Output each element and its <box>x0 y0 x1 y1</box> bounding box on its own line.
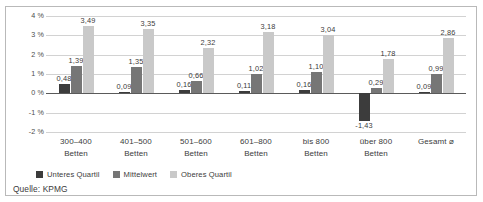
bar <box>299 90 310 93</box>
bar-group: 0,481,393,49 <box>46 16 106 132</box>
bar-value-label: 2,86 <box>441 29 456 37</box>
y-axis: 4 %3 %2 %1 %0 %-1 %-2 % <box>6 16 44 132</box>
bar <box>239 91 250 93</box>
bar-group: 0,111,023,18 <box>226 16 286 132</box>
bar-value-label: 0,11 <box>237 82 251 90</box>
bar <box>419 92 430 94</box>
bar <box>131 67 142 93</box>
gridline <box>46 132 466 133</box>
bar-value-label: 0,09 <box>417 83 432 91</box>
bar-value-label: 2,32 <box>201 39 216 47</box>
category-label-line2: Betten <box>166 148 226 160</box>
bar <box>203 48 214 93</box>
category-label-line2: Betten <box>286 148 346 160</box>
bar-group: 0,090,992,86 <box>406 16 466 132</box>
legend-item: Oberes Quartil <box>170 170 232 179</box>
y-axis-tick-label: -2 % <box>10 128 44 136</box>
category-label-line1: 401–500 <box>120 137 152 146</box>
category-label-line2: Betten <box>346 148 406 160</box>
x-axis-category-label: 601–800Betten <box>226 136 286 159</box>
bar <box>431 74 442 93</box>
legend-label: Mittelwert <box>124 170 158 179</box>
source-note: Quelle: KPMG <box>13 184 68 194</box>
category-label-line1: 501–600 <box>180 137 212 146</box>
bar-value-label: 0,16 <box>297 81 312 89</box>
x-axis-category-label: 501–600Betten <box>166 136 226 159</box>
bar-value-label: 1,78 <box>381 50 396 58</box>
bar <box>119 92 130 94</box>
x-axis-category-label: 300–400Betten <box>46 136 106 159</box>
bar-value-label: 1,10 <box>309 63 324 71</box>
category-label-line1: 601–800 <box>240 137 272 146</box>
y-axis-tick-label: 1 % <box>10 70 44 78</box>
bar-value-label: 3,18 <box>261 23 276 31</box>
x-axis-category-label: Gesamt ⌀ <box>406 136 466 148</box>
bar-value-label: 3,49 <box>81 17 96 25</box>
bar-value-label: 3,04 <box>321 26 336 34</box>
y-axis-tick-label: 0 % <box>10 89 44 97</box>
bar <box>71 66 82 93</box>
category-label-line2: Betten <box>226 148 286 160</box>
category-label-line2: Betten <box>106 148 166 160</box>
bar-value-label: 0,48 <box>57 75 72 83</box>
bar-value-label: 0,16 <box>177 81 192 89</box>
bar <box>323 35 334 94</box>
bar-group: -1,430,291,78 <box>346 16 406 132</box>
plot-area: 0,481,393,490,091,353,350,160,662,320,11… <box>46 16 466 132</box>
category-label-line1: 300–400 <box>60 137 92 146</box>
legend-swatch-icon <box>170 171 177 178</box>
legend-label: Oberes Quartil <box>181 170 232 179</box>
bar-value-label: -1,43 <box>355 122 372 130</box>
x-axis-category-label: über 800Betten <box>346 136 406 159</box>
y-axis-tick-label: -1 % <box>10 109 44 117</box>
category-label-line1: Gesamt ⌀ <box>418 137 454 146</box>
x-axis-category-label: bis 800Betten <box>286 136 346 159</box>
bar <box>263 32 274 93</box>
y-axis-tick-label: 4 % <box>10 12 44 20</box>
bar <box>359 93 370 121</box>
bar <box>143 29 154 94</box>
bar-value-label: 1,39 <box>69 57 84 65</box>
bar-value-label: 3,35 <box>141 20 156 28</box>
category-label-line1: bis 800 <box>303 137 330 146</box>
y-axis-tick-label: 3 % <box>10 31 44 39</box>
bar-value-label: 0,29 <box>369 79 384 87</box>
y-axis-tick-label: 2 % <box>10 51 44 59</box>
bar <box>191 81 202 94</box>
category-label-line1: über 800 <box>360 137 392 146</box>
bar <box>383 59 394 93</box>
chart-figure: 4 %3 %2 %1 %0 %-1 %-2 % 0,481,393,490,09… <box>0 0 483 202</box>
bar <box>443 38 454 93</box>
bar <box>179 90 190 93</box>
bar-value-label: 1,35 <box>129 58 144 66</box>
bar-value-label: 1,02 <box>249 65 264 73</box>
legend-item: Mittelwert <box>113 170 158 179</box>
bar <box>251 74 262 94</box>
bar-value-label: 0,09 <box>117 83 132 91</box>
legend-item: Unteres Quartil <box>36 170 100 179</box>
bar-group: 0,161,103,04 <box>286 16 346 132</box>
bar-group: 0,091,353,35 <box>106 16 166 132</box>
bar-value-label: 0,99 <box>429 65 444 73</box>
legend-label: Unteres Quartil <box>47 170 100 179</box>
legend-swatch-icon <box>113 171 120 178</box>
bar-group: 0,160,662,32 <box>166 16 226 132</box>
x-axis-category-labels: 300–400Betten401–500Betten501–600Betten6… <box>46 136 466 162</box>
bar <box>371 88 382 94</box>
legend-swatch-icon <box>36 171 43 178</box>
bar-value-label: 0,66 <box>189 72 204 80</box>
chart-legend: Unteres QuartilMittelwertOberes Quartil <box>36 168 245 180</box>
bar <box>311 72 322 93</box>
bar <box>83 26 94 93</box>
category-label-line2: Betten <box>46 148 106 160</box>
bar <box>59 84 70 93</box>
x-axis-category-label: 401–500Betten <box>106 136 166 159</box>
